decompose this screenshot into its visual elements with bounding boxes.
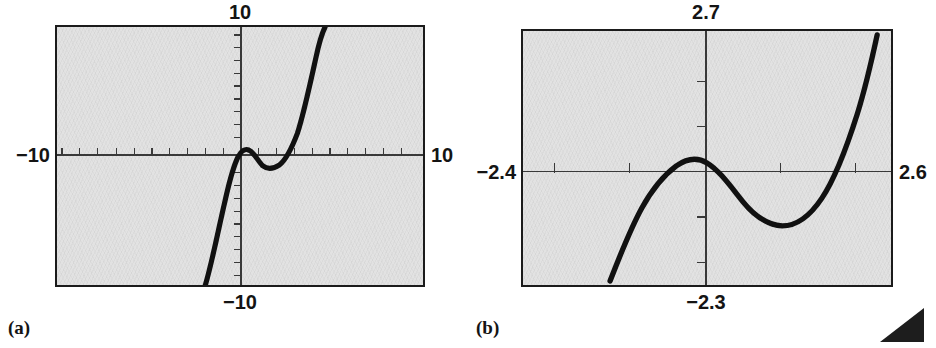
axis-label-a-top: 10 [229,2,251,22]
axis-label-a-right: 10 [431,145,453,165]
panel-caption-b: (b) [476,318,499,337]
axis-label-b-bottom: −2.3 [686,292,725,312]
plot-b-graphics [523,31,891,285]
calculator-screen-b [521,29,893,287]
scan-artifact-triangle-icon [880,308,924,342]
figure-two-viewing-windows: 10 −10 10 −10 (a) [0,0,936,348]
curve-b [610,35,877,281]
axis-label-a-left: −10 [16,145,50,165]
axis-label-b-left: −2.4 [477,162,516,182]
calculator-screen-a [55,25,425,287]
plot-a-graphics [57,27,423,285]
panel-caption-a: (a) [8,318,30,337]
axes-b [523,31,891,285]
axis-label-b-right: 2.6 [899,162,927,182]
axis-label-b-top: 2.7 [692,2,720,22]
panel-b: 2.7 −2.4 2.6 −2.3 (b) [468,0,936,348]
axis-label-a-bottom: −10 [223,292,257,312]
panel-a: 10 −10 10 −10 (a) [0,0,468,348]
